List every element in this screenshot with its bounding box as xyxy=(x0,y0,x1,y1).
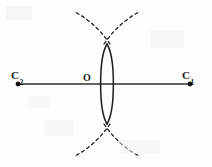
label-c2-subscript: 2 xyxy=(20,78,24,87)
label-origin: O xyxy=(83,68,91,84)
dashed-arc-upper-right xyxy=(104,12,139,44)
dashed-arc-lower-left xyxy=(75,124,110,156)
label-c1: C1 xyxy=(182,66,194,85)
diagram-canvas xyxy=(0,0,212,167)
label-c1-subscript: 1 xyxy=(191,78,195,87)
dashed-arc-lower-right xyxy=(104,124,139,156)
figure-container: C2 O C1 xyxy=(0,0,212,167)
dashed-arc-upper-left xyxy=(75,12,110,44)
label-c2: C2 xyxy=(11,66,23,85)
label-c1-main: C xyxy=(182,69,190,81)
label-origin-main: O xyxy=(83,72,91,83)
label-c2-main: C xyxy=(11,69,19,81)
